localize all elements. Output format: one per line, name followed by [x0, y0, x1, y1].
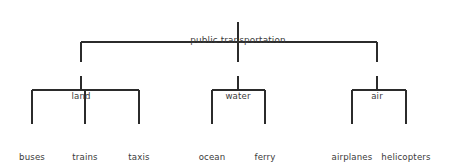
node-label-text: water [225, 91, 250, 102]
node-public-transportation[interactable]: public transportation [190, 14, 285, 67]
node-airplanes[interactable]: airplanes [332, 131, 373, 165]
node-label-text: buses [19, 152, 45, 163]
node-label-text-line1: ocean [199, 152, 226, 163]
node-water[interactable]: water [225, 70, 250, 123]
node-label-text-line1: ferry [253, 152, 278, 163]
node-label-text: trains [72, 152, 97, 163]
node-buses[interactable]: buses [19, 131, 45, 165]
node-label-text: airplanes [332, 152, 373, 163]
node-label-text: taxis [128, 152, 149, 163]
node-helicopters[interactable]: helicopters [381, 131, 430, 165]
node-label-text: air [371, 91, 383, 102]
node-trains[interactable]: trains [72, 131, 97, 165]
node-air[interactable]: air [371, 70, 383, 123]
node-ferry-boats[interactable]: ferry boats [253, 131, 278, 165]
node-label-text: land [71, 91, 90, 102]
node-label-text: public transportation [190, 35, 285, 46]
node-ocean-liners[interactable]: ocean liners [199, 131, 226, 165]
node-taxis[interactable]: taxis [128, 131, 149, 165]
node-land[interactable]: land [71, 70, 90, 123]
tree-diagram: public transportation land water air bus… [0, 0, 451, 165]
node-label-text: helicopters [381, 152, 430, 163]
